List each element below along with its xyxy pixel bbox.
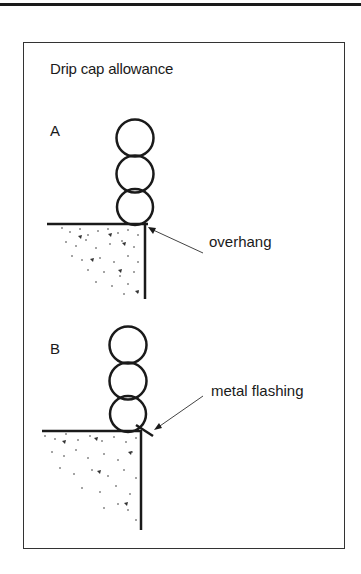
panel-a-drawing	[47, 120, 203, 300]
panel-b-drawing	[42, 327, 203, 531]
bead-stack-b	[110, 327, 147, 433]
diagram-drawing	[0, 0, 361, 574]
masonry-block-a	[61, 227, 139, 295]
flashing-arrowhead-icon	[154, 423, 162, 430]
overhang-leader	[151, 229, 203, 253]
bead-stack-a	[117, 120, 154, 226]
flashing-leader	[157, 396, 203, 428]
masonry-block-b	[44, 433, 137, 521]
